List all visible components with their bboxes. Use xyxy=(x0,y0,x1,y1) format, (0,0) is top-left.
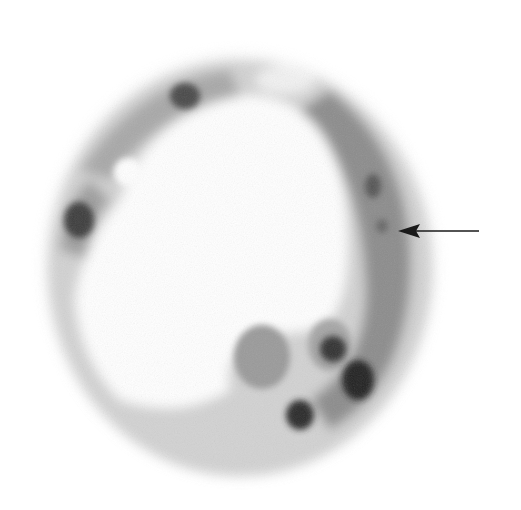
cyst-image xyxy=(0,0,521,510)
micrograph xyxy=(0,0,521,510)
